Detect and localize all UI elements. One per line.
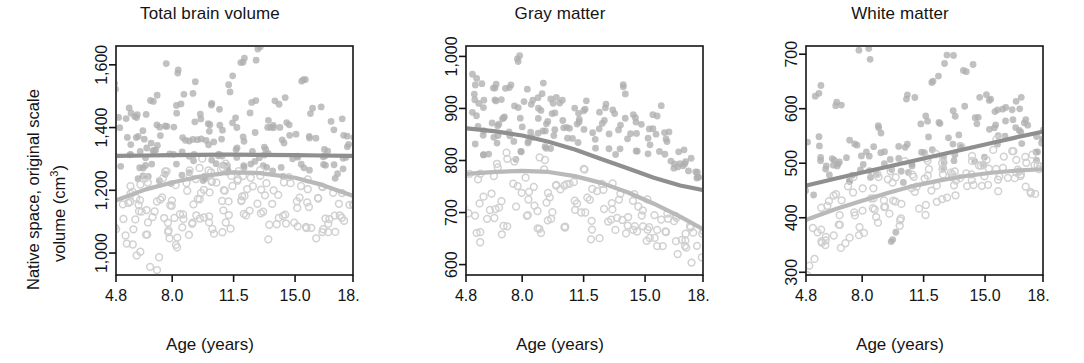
data-point-filled <box>179 172 186 179</box>
data-point-filled <box>539 90 546 97</box>
data-point-open <box>1005 174 1012 181</box>
data-point-filled <box>241 138 248 145</box>
x-tick-label: 8.0 <box>851 287 873 304</box>
data-point-filled <box>856 47 863 54</box>
data-point-open <box>477 239 484 246</box>
data-point-filled <box>675 148 682 155</box>
data-point-filled <box>581 126 588 133</box>
data-point-filled <box>571 105 578 112</box>
data-point-filled <box>617 145 624 152</box>
data-point-open <box>132 216 139 223</box>
data-point-open <box>928 187 935 194</box>
data-point-filled <box>970 61 977 68</box>
data-point-filled <box>682 158 689 165</box>
data-point-filled <box>992 122 999 129</box>
data-point-filled <box>473 112 480 119</box>
x-tick-label: 15.0 <box>629 287 660 304</box>
data-point-filled <box>229 119 236 126</box>
x-tick-label: 11.5 <box>909 287 939 304</box>
data-point-filled <box>173 161 180 168</box>
data-point-open <box>130 226 137 233</box>
data-point-open <box>549 209 556 216</box>
data-point-filled <box>344 133 351 140</box>
y-tick-label: 400 <box>783 204 800 231</box>
panel-gray-matter: 4.88.011.515.018.36007008009001,000 Gray… <box>410 0 710 363</box>
data-point-open <box>137 181 144 188</box>
data-point-open <box>522 174 529 181</box>
data-point-filled <box>1043 130 1050 137</box>
data-point-open <box>682 230 689 237</box>
data-point-open <box>1000 153 1007 160</box>
data-point-filled <box>514 55 521 62</box>
data-point-filled <box>339 115 346 122</box>
data-point-filled <box>473 75 480 82</box>
y-tick-label: 700 <box>783 41 800 68</box>
data-point-filled <box>611 110 618 117</box>
data-point-filled <box>156 124 163 131</box>
data-point-open <box>836 212 843 219</box>
data-point-filled <box>218 136 225 143</box>
data-point-open <box>601 206 608 213</box>
data-point-filled <box>624 135 631 142</box>
x-tick-label: 11.5 <box>219 287 249 304</box>
data-point-filled <box>494 140 501 147</box>
data-point-open <box>926 166 933 173</box>
data-point-filled <box>929 146 936 153</box>
panel-white-matter: 4.88.011.515.018.3300400500600700 White … <box>750 0 1050 363</box>
data-point-filled <box>135 133 142 140</box>
data-point-filled <box>313 135 320 142</box>
data-point-open <box>491 215 498 222</box>
data-point-filled <box>517 115 524 122</box>
data-point-open <box>525 196 532 203</box>
data-point-filled <box>1041 136 1048 143</box>
data-point-filled <box>219 127 226 134</box>
data-point-open <box>838 197 845 204</box>
data-point-filled <box>141 136 148 143</box>
data-point-filled <box>247 109 254 116</box>
data-point-filled <box>510 138 517 145</box>
data-point-open <box>225 212 232 219</box>
data-point-filled <box>320 161 327 168</box>
data-point-open <box>283 220 290 227</box>
x-axis-label-white-matter: Age (years) <box>750 335 1050 355</box>
data-point-open <box>964 183 971 190</box>
data-point-filled <box>345 141 352 148</box>
data-point-filled <box>143 145 150 152</box>
data-point-open <box>156 254 163 261</box>
data-point-open <box>694 242 701 249</box>
data-point-filled <box>922 113 929 120</box>
y-tick-label: 1,200 <box>93 170 110 210</box>
x-tick-label: 18.3 <box>337 287 360 304</box>
data-point-filled <box>976 94 983 101</box>
data-point-open <box>258 186 265 193</box>
data-point-filled <box>1009 106 1016 113</box>
data-point-filled <box>148 161 155 168</box>
data-point-open <box>811 256 818 263</box>
data-point-filled <box>816 133 823 140</box>
data-point-filled <box>163 60 170 67</box>
data-point-open <box>916 205 923 212</box>
data-point-filled <box>875 124 882 131</box>
data-point-open <box>588 236 595 243</box>
data-point-filled <box>252 129 259 136</box>
data-point-filled <box>124 134 131 141</box>
data-point-open <box>120 216 127 223</box>
data-point-filled <box>191 118 198 125</box>
data-point-filled <box>645 150 652 157</box>
data-point-open <box>154 267 161 274</box>
data-point-filled <box>904 91 911 98</box>
x-tick-label: 15.0 <box>969 287 1000 304</box>
data-point-filled <box>575 139 582 146</box>
data-point-open <box>186 232 193 239</box>
data-point-filled <box>550 132 557 139</box>
data-point-open <box>247 174 254 181</box>
data-point-filled <box>972 114 979 121</box>
data-point-filled <box>502 85 509 92</box>
data-point-open <box>147 263 154 270</box>
data-point-open <box>266 221 273 228</box>
data-point-open <box>624 222 631 229</box>
data-point-filled <box>612 151 619 158</box>
data-point-filled <box>142 162 149 169</box>
panel-title-total-brain-volume: Total brain volume <box>60 4 360 24</box>
data-point-filled <box>961 103 968 110</box>
